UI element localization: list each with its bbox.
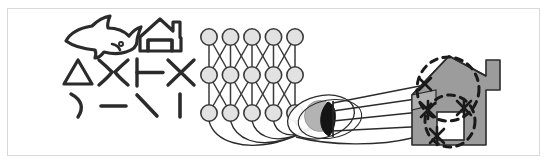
network-node	[287, 67, 303, 83]
network-node	[244, 105, 260, 121]
network-node	[244, 67, 260, 83]
figure-root	[0, 0, 547, 165]
network-node	[201, 29, 217, 45]
network-node	[244, 29, 260, 45]
network-node	[201, 105, 217, 121]
diagram-canvas	[0, 0, 547, 165]
house-window	[437, 112, 464, 140]
network-node	[287, 29, 303, 45]
network-node	[222, 105, 238, 121]
network-node	[201, 67, 217, 83]
network-node	[265, 29, 281, 45]
network-node	[222, 67, 238, 83]
network-node	[222, 29, 238, 45]
network-node	[265, 67, 281, 83]
network-node	[265, 105, 281, 121]
